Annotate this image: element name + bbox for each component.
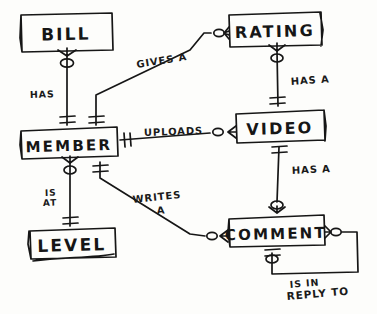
relationship-label-has: HAS [30, 88, 55, 100]
optional-circle-gives-a [214, 29, 224, 36]
entity-label-level: LEVEL [37, 234, 107, 256]
relationship-label-is-at-line1: IS [45, 188, 57, 198]
entity-label-member: MEMBER [25, 136, 112, 156]
optional-circle-uploads [213, 128, 223, 135]
er-diagram-canvas: BILL RATING MEMBER VIDEO LEVEL COMMENT H… [0, 0, 377, 314]
optional-circle-writes-a [207, 232, 217, 239]
relationship-label-gives-a: GIVES A [136, 51, 188, 70]
crowsfoot-gives-a-rating [224, 27, 229, 39]
crowsfoot-uploads-video [228, 126, 236, 138]
relationship-label-writes-a-line2: A [156, 204, 165, 216]
optional-circle-is-in-reply-to [331, 228, 341, 235]
relationship-label-uploads: UPLOADS [144, 125, 204, 138]
crowsfoot-rating-has-a-rating [269, 43, 285, 51]
relationship-label-is-at-line2: AT [43, 198, 58, 208]
entity-label-bill: BILL [41, 24, 91, 45]
relationship-label-rating-has-a: HAS A [290, 73, 330, 87]
crowsfoot-has-bill [58, 48, 76, 56]
connector-video-has-a [277, 147, 279, 202]
relationship-label-video-has-a: HAS A [292, 163, 332, 176]
entity-label-video: VIDEO [246, 118, 314, 139]
relationship-label-writes-a-line1: WRITES [132, 189, 182, 205]
er-diagram-svg: BILL RATING MEMBER VIDEO LEVEL COMMENT H… [0, 0, 377, 314]
entity-label-comment: COMMENT [225, 224, 327, 245]
entity-label-rating: RATING [235, 21, 316, 42]
